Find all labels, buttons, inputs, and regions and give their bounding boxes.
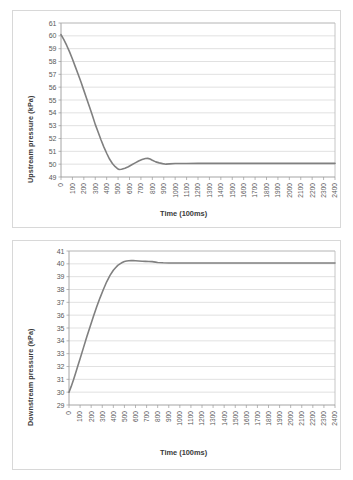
x-tick-label: 100: [69, 183, 76, 194]
y-tick-label: 38: [57, 286, 65, 293]
y-tick-label: 40: [57, 260, 65, 267]
chart-panel-downstream: 2930313233343536373839404101002003004005…: [12, 240, 341, 470]
x-tick-label: 2100: [297, 183, 304, 198]
x-tick-label: 800: [154, 411, 161, 422]
y-tick-label: 41: [57, 248, 65, 255]
x-tick-label: 600: [126, 183, 133, 194]
x-tick-label: 2400: [331, 411, 338, 426]
y-tick-label: 60: [49, 32, 57, 39]
x-tick-label: 1700: [251, 183, 258, 198]
x-tick-label: 1900: [276, 411, 283, 426]
x-tick-label: 1000: [176, 411, 183, 426]
x-tick-label: 1800: [265, 411, 272, 426]
y-tick-label: 55: [49, 97, 57, 104]
x-tick-label: 300: [92, 183, 99, 194]
x-tick-label: 700: [137, 183, 144, 194]
x-tick-label: 600: [132, 411, 139, 422]
y-tick-label: 54: [49, 109, 57, 116]
x-tick-label: 2300: [320, 411, 327, 426]
chart-panel-upstream: 4950515253545556575859606101002003004005…: [12, 10, 341, 228]
x-tick-label: 2300: [320, 183, 327, 198]
y-tick-label: 51: [49, 148, 57, 155]
y-tick-label: 39: [57, 273, 65, 280]
x-tick-label: 300: [99, 411, 106, 422]
x-tick-label: 0: [57, 183, 64, 187]
x-tick-label: 1500: [229, 183, 236, 198]
x-tick-label: 1800: [263, 183, 270, 198]
y-tick-label: 53: [49, 122, 57, 129]
x-tick-label: 1700: [254, 411, 261, 426]
y-tick-label: 36: [57, 312, 65, 319]
series-line-downstream: [69, 261, 335, 393]
x-tick-label: 200: [80, 183, 87, 194]
x-tick-label: 1600: [243, 411, 250, 426]
y-tick-label: 59: [49, 45, 57, 52]
figure-page: 4950515253545556575859606101002003004005…: [0, 0, 353, 480]
y-axis-title-downstream: Downstream pressure (kPa): [26, 328, 35, 426]
x-tick-label: 2000: [287, 411, 294, 426]
x-tick-label: 2200: [309, 183, 316, 198]
x-tick-label: 500: [121, 411, 128, 422]
x-tick-label: 1400: [217, 183, 224, 198]
x-tick-label: 1900: [274, 183, 281, 198]
x-tick-label: 0: [65, 411, 72, 415]
y-tick-label: 56: [49, 84, 57, 91]
x-tick-label: 1200: [198, 411, 205, 426]
chart-area-downstream: 2930313233343536373839404101002003004005…: [13, 241, 340, 469]
x-axis-title-downstream: Time (100ms): [160, 448, 207, 457]
x-tick-label: 1200: [194, 183, 201, 198]
x-tick-label: 1600: [240, 183, 247, 198]
y-tick-label: 49: [49, 174, 57, 181]
x-tick-label: 1300: [209, 411, 216, 426]
y-tick-label: 61: [49, 20, 57, 27]
y-tick-label: 31: [57, 376, 65, 383]
series-line-upstream: [61, 35, 335, 170]
x-tick-label: 700: [143, 411, 150, 422]
x-tick-label: 500: [114, 183, 121, 194]
y-tick-label: 50: [49, 161, 57, 168]
x-tick-label: 1500: [232, 411, 239, 426]
y-axis-title-upstream: Upstream pressure (kPa): [26, 96, 35, 183]
y-tick-label: 34: [57, 337, 65, 344]
x-tick-label: 1300: [206, 183, 213, 198]
x-tick-label: 1000: [172, 183, 179, 198]
y-tick-label: 29: [57, 402, 65, 409]
x-tick-label: 2200: [309, 411, 316, 426]
y-tick-label: 32: [57, 363, 65, 370]
y-tick-label: 33: [57, 350, 65, 357]
x-tick-label: 900: [160, 183, 167, 194]
x-tick-label: 800: [149, 183, 156, 194]
downstream-pressure-plot: 2930313233343536373839404101002003004005…: [13, 241, 340, 469]
x-tick-label: 100: [76, 411, 83, 422]
upstream-pressure-plot: 4950515253545556575859606101002003004005…: [13, 11, 340, 227]
x-tick-label: 1100: [187, 411, 194, 426]
y-tick-label: 57: [49, 71, 57, 78]
x-tick-label: 900: [165, 411, 172, 422]
x-axis-title-upstream: Time (100ms): [160, 209, 207, 218]
chart-area-upstream: 4950515253545556575859606101002003004005…: [13, 11, 340, 227]
x-tick-label: 2100: [298, 411, 305, 426]
y-tick-label: 30: [57, 389, 65, 396]
y-tick-label: 58: [49, 58, 57, 65]
x-tick-label: 400: [110, 411, 117, 422]
y-tick-label: 37: [57, 299, 65, 306]
x-tick-label: 400: [103, 183, 110, 194]
x-tick-label: 200: [88, 411, 95, 422]
x-tick-label: 2000: [286, 183, 293, 198]
x-tick-label: 2400: [331, 183, 338, 198]
x-tick-label: 1100: [183, 183, 190, 198]
y-tick-label: 35: [57, 325, 65, 332]
x-tick-label: 1400: [221, 411, 228, 426]
y-tick-label: 52: [49, 135, 57, 142]
